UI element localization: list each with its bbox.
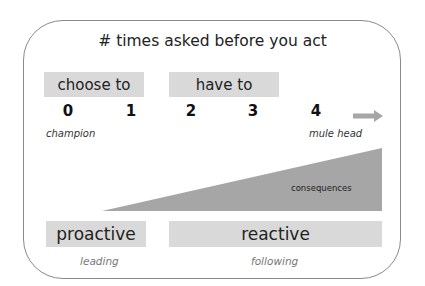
proactive-box: proactive	[46, 221, 146, 247]
reactive-box: reactive	[169, 221, 382, 247]
following-caption: following	[251, 255, 298, 267]
consequences-label: consequences	[291, 183, 352, 193]
leading-caption: leading	[80, 255, 119, 267]
proactive-label: proactive	[56, 224, 135, 244]
reactive-label: reactive	[241, 224, 310, 244]
